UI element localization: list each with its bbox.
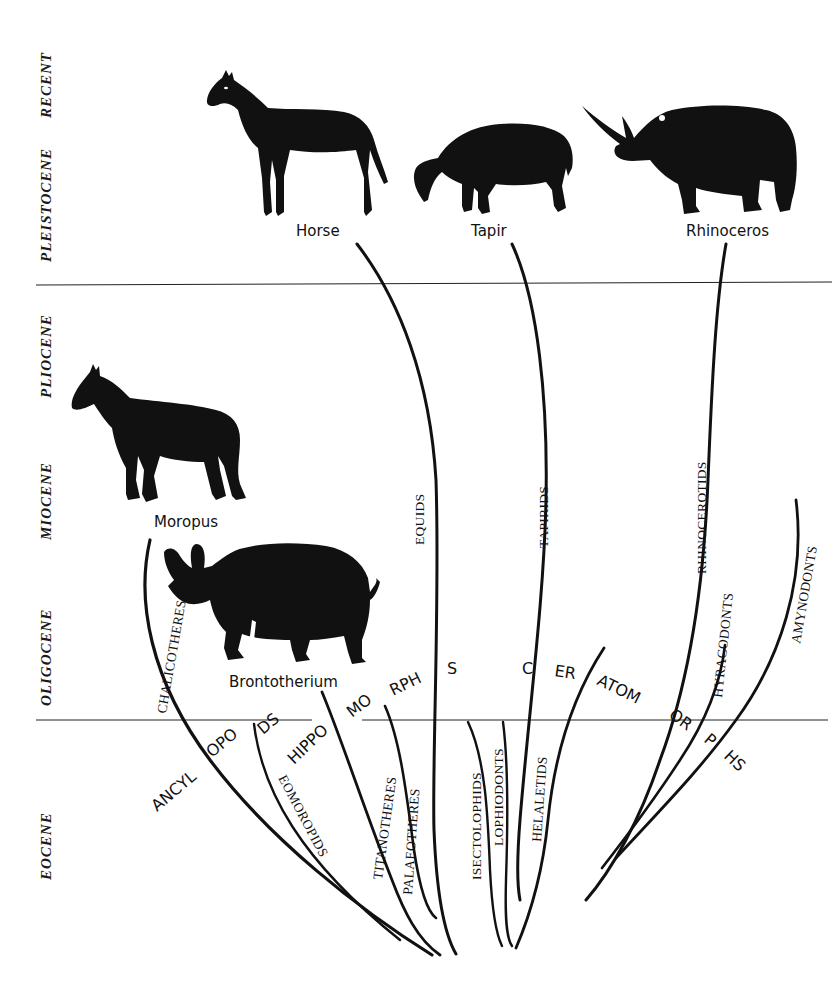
epoch-labels: RECENT PLEISTOCENE PLIOCENE MIOCENE OLIG… [38, 52, 54, 881]
epoch-label-pliocene: PLIOCENE [38, 314, 54, 398]
lineage-label-titanotheres: TITANOTHERES [370, 776, 399, 881]
epoch-label-oligocene: OLIGOCENE [38, 609, 54, 706]
animal-label-horse: Horse [296, 222, 340, 240]
horse-eye-highlight [224, 87, 228, 90]
group-label-ds: DS [253, 709, 282, 738]
lineage-label-equids: EQUIDS [412, 494, 427, 545]
group-label-er: ER [553, 661, 577, 683]
animal-label-moropus: Moropus [154, 513, 218, 531]
group-label-p: P [700, 730, 720, 751]
lineage-label-isectolophids: ISECTOLOPHIDS [469, 772, 484, 880]
rhinoceros-ear-highlight [659, 115, 665, 121]
epoch-label-eocene: EOCENE [38, 812, 54, 881]
animal-label-tapir: Tapir [470, 222, 508, 240]
group-label-atom: ATOM [594, 671, 644, 708]
perissodactyl-phylogeny-diagram: RECENT PLEISTOCENE PLIOCENE MIOCENE OLIG… [0, 0, 840, 984]
animal-label-rhinoceros: Rhinoceros [686, 222, 769, 240]
lineage-label-hyracodonts: HYRACODONTS [710, 592, 736, 698]
horse-silhouette [207, 70, 388, 216]
lineage-label-chalicotheres: CHALICOTHERES [154, 599, 189, 715]
group-label-hippo: HIPPO [284, 720, 332, 767]
branch-helaletids [516, 648, 604, 948]
group-label-c: C [522, 659, 533, 678]
rhinoceros-silhouette [582, 106, 797, 215]
moropus-silhouette [72, 364, 246, 502]
group-label-rph: RPH [386, 668, 424, 699]
lineage-label-lophiodonts: LOPHIODONTS [491, 748, 506, 846]
lineage-label-rhinocerotids: RHINOCEROTIDS [694, 461, 709, 574]
brontotherium-silhouette [164, 543, 380, 664]
tapir-silhouette [414, 124, 573, 215]
epoch-label-miocene: MIOCENE [38, 462, 54, 541]
pleistocene-pliocene-boundary [36, 282, 832, 285]
group-label-ancyl: ANCYL [147, 767, 199, 815]
group-label-mo: MO [343, 690, 376, 721]
epoch-label-recent: RECENT [38, 52, 54, 119]
group-label-hs: HS [720, 746, 749, 775]
lineage-label-tapirids: TAPIRIDS [536, 486, 551, 548]
animal-label-brontotherium: Brontotherium [229, 673, 338, 691]
epoch-label-pleistocene: PLEISTOCENE [38, 148, 54, 262]
lineage-label-eomoropids: EOMOROPIDS [275, 772, 331, 859]
group-label-s: S [447, 659, 457, 678]
